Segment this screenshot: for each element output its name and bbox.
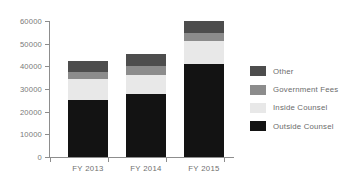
bar-segment-other[interactable] xyxy=(184,21,224,33)
y-axis-tick-label: 20000 xyxy=(20,107,42,116)
bar-segment-government-fees[interactable] xyxy=(68,72,108,79)
bar-segment-government-fees[interactable] xyxy=(126,66,166,75)
legend-item-inside-counsel[interactable]: Inside Counsel xyxy=(250,99,338,117)
y-axis-tick-mark xyxy=(45,21,49,22)
legend-swatch-outside-counsel xyxy=(250,121,266,131)
y-axis-tick-label: 50000 xyxy=(20,39,42,48)
bar-segment-other[interactable] xyxy=(68,61,108,72)
stacked-bar-chart: 6000050000400003000020000100000 OtherGov… xyxy=(0,0,355,182)
legend-swatch-government-fees xyxy=(250,85,266,95)
legend-label: Government Fees xyxy=(273,85,338,94)
x-axis-tick-mark xyxy=(108,158,109,162)
y-axis-tick-label: 10000 xyxy=(20,130,42,139)
y-axis-tick-label: 0 xyxy=(38,153,42,162)
chart-legend: OtherGovernment FeesInside CounselOutsid… xyxy=(250,62,338,136)
bar-segment-inside-counsel[interactable] xyxy=(184,41,224,64)
bar-segment-government-fees[interactable] xyxy=(184,33,224,41)
bar-segment-other[interactable] xyxy=(126,54,166,66)
y-axis-tick-mark xyxy=(45,66,49,67)
legend-item-government-fees[interactable]: Government Fees xyxy=(250,80,338,98)
legend-label: Other xyxy=(273,67,294,76)
y-axis-tick-label: 60000 xyxy=(20,17,42,26)
legend-swatch-inside-counsel xyxy=(250,103,266,113)
y-axis-tick-mark xyxy=(45,89,49,90)
x-axis-tick-label: FY 2013 xyxy=(72,164,103,173)
y-axis-tick-mark xyxy=(45,134,49,135)
legend-item-outside-counsel[interactable]: Outside Counsel xyxy=(250,117,338,135)
bar-stack[interactable] xyxy=(68,61,108,157)
y-axis-tick-mark xyxy=(45,112,49,113)
y-axis-tick-mark xyxy=(45,44,49,45)
y-axis-tick-mark xyxy=(45,157,49,158)
legend-label: Outside Counsel xyxy=(273,122,334,131)
y-axis-tick-label: 30000 xyxy=(20,85,42,94)
x-axis-line xyxy=(49,157,234,158)
plot-area xyxy=(50,21,234,157)
x-axis-tick-mark xyxy=(50,158,51,162)
bar-segment-outside-counsel[interactable] xyxy=(184,64,224,157)
x-axis-tick-label: FY 2014 xyxy=(130,164,161,173)
bar-segment-outside-counsel[interactable] xyxy=(68,100,108,157)
bar-segment-inside-counsel[interactable] xyxy=(126,75,166,94)
legend-swatch-other xyxy=(250,66,266,76)
bar-stack[interactable] xyxy=(126,54,166,157)
legend-item-other[interactable]: Other xyxy=(250,62,338,80)
y-axis-tick-label: 40000 xyxy=(20,62,42,71)
x-axis-tick-mark xyxy=(166,158,167,162)
legend-label: Inside Counsel xyxy=(273,103,327,112)
x-axis-tick-mark xyxy=(224,158,225,162)
bar-segment-inside-counsel[interactable] xyxy=(68,79,108,100)
bar-stack[interactable] xyxy=(184,21,224,157)
bar-segment-outside-counsel[interactable] xyxy=(126,94,166,157)
y-axis: 6000050000400003000020000100000 xyxy=(0,0,46,182)
x-axis-tick-label: FY 2015 xyxy=(188,164,219,173)
